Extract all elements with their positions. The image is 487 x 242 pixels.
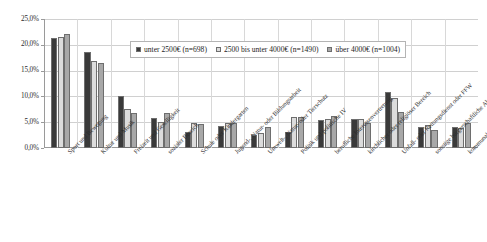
bar [51,38,57,148]
bar [118,96,124,148]
category-separator [211,19,212,148]
y-axis-tick-label: 25,0% [0,15,39,23]
y-axis-tick-label: 5,0% [0,118,39,126]
category-separator [378,19,379,148]
legend-entry: unter 2500€ (n=698) [136,46,207,54]
x-axis-label: kirchlicher oder religiöser Bereich [366,150,371,155]
category-separator [111,19,112,148]
y-axis-tick-label: 15,0% [0,66,39,74]
x-axis-label: kommunale Einrichtungen / IG [466,150,471,155]
bar [64,34,70,148]
chart-legend: unter 2500€ (n=698)2500 bis unter 4000€ … [130,41,406,58]
legend-entry: über 4000€ (n=1004) [327,46,400,54]
bar [98,63,104,148]
category-separator [311,19,312,148]
category-separator [244,19,245,148]
category-separator [178,19,179,148]
bar [91,61,97,148]
category-separator [278,19,279,148]
category-separator [77,19,78,148]
bar [231,123,237,148]
bar-chart: 0,0%5,0%10,0%15,0%20,0%25,0% unter 2500€… [0,0,487,242]
x-axis-label: Kultur und Musik [99,150,104,155]
x-axis-label: sozialer Bereich [166,150,171,155]
x-axis-label: Unfall- oder Rettungsdienst oder FFW [400,150,405,155]
x-axis-label: berufliche Interessenvertretung [333,150,338,155]
bar [58,37,64,148]
category-separator [445,19,446,148]
bar [258,133,264,148]
legend-swatch-icon [327,47,332,52]
y-axis-tick-label: 10,0% [0,92,39,100]
bar [131,113,137,148]
legend-entry: 2500 bis unter 4000€ (n=1490) [216,46,319,54]
category-separator [411,19,412,148]
x-axis-label: Politik und politische IV [299,150,304,155]
legend-swatch-icon [216,47,221,52]
x-axis-label: sonstige bürgerschaftliche Aktivität [433,150,438,155]
category-separator [344,19,345,148]
bar-group [44,19,77,148]
x-axis-label: Sport und Bewegung [66,150,71,155]
legend-swatch-icon [136,47,141,52]
x-axis-label: Schule oder Kindergarten [199,150,204,155]
legend-label: über 4000€ (n=1004) [335,46,400,54]
y-axis-tick-mark [41,148,44,149]
x-axis-labels: Sport und BewegungKultur und MusikFreize… [0,150,487,242]
x-axis-label: Freizeit und Geselligkeit [132,150,137,155]
legend-label: 2500 bis unter 4000€ (n=1490) [224,46,319,54]
x-axis-label: Umwelt-, Natur- oder Tierschutz [266,150,271,155]
x-axis-label: Jugend-, Natur- oder Bildungsarbeit [233,150,238,155]
y-axis-tick-label: 20,0% [0,40,39,48]
legend-label: unter 2500€ (n=698) [144,46,207,54]
category-separator [144,19,145,148]
